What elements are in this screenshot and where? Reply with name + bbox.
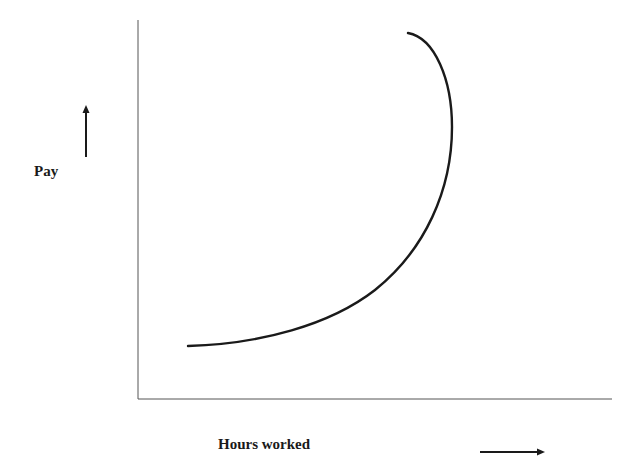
y-arrow-icon: [83, 105, 90, 157]
x-arrow-icon: [480, 449, 545, 456]
x-axis-label: Hours worked: [218, 436, 310, 453]
chart-canvas: [0, 0, 637, 466]
y-axis-label: Pay: [34, 163, 58, 180]
supply-curve: [188, 33, 452, 346]
